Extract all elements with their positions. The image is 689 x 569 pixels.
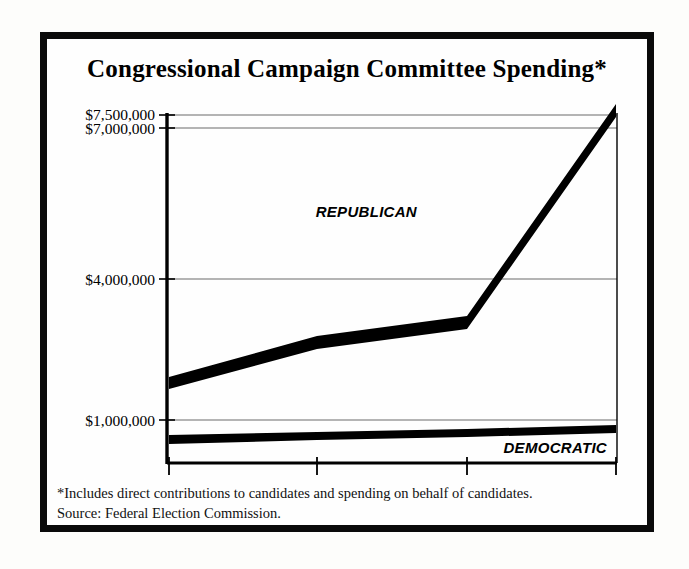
x-axis-ticks <box>169 457 616 475</box>
y-tick-label-7000000: $7,000,000 <box>85 120 155 137</box>
footnotes: *Includes direct contributions to candid… <box>57 483 653 523</box>
gridlines <box>167 115 617 420</box>
series-line-republican <box>169 104 616 389</box>
chart-plot: $7,500,000 $7,000,000 $4,000,000 $1,000,… <box>47 39 647 479</box>
series-label-republican: REPUBLICAN <box>316 203 418 220</box>
figure-frame: Congressional Campaign Committee Spendin… <box>40 32 654 532</box>
figure-page: Congressional Campaign Committee Spendin… <box>0 0 689 569</box>
footnote-asterisk: *Includes direct contributions to candid… <box>57 483 653 503</box>
series-label-democratic: DEMOCRATIC <box>503 439 607 456</box>
footnote-source: Source: Federal Election Commission. <box>57 503 653 523</box>
y-tick-label-4000000: $4,000,000 <box>85 271 155 288</box>
y-tick-label-1000000: $1,000,000 <box>85 412 155 429</box>
